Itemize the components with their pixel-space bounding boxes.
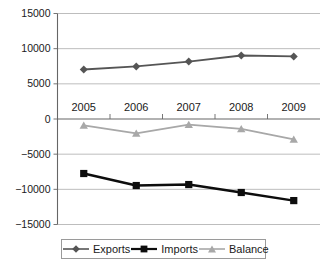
line-chart: 150001000050000−5000−10000−15000 2005200… xyxy=(0,0,327,266)
data-point-diamond xyxy=(290,52,298,60)
data-point-diamond xyxy=(132,62,140,70)
y-tick-label: −15000 xyxy=(15,218,50,230)
legend-marker-square-icon xyxy=(130,243,158,255)
legend-marker-triangle-icon xyxy=(198,243,226,255)
x-category-labels: 20052006200720082009 xyxy=(72,101,306,113)
legend-marker-diamond-icon xyxy=(62,243,90,255)
y-tick-label: 15000 xyxy=(21,7,50,19)
chart-plot-area: 150001000050000−5000−10000−15000 2005200… xyxy=(0,0,327,266)
x-category-label: 2007 xyxy=(177,101,201,113)
y-tick-label: −10000 xyxy=(15,183,50,195)
y-tick-label: 0 xyxy=(45,113,51,125)
data-point-square xyxy=(290,197,297,204)
series-exports xyxy=(80,51,298,73)
legend-item-exports: Exports xyxy=(62,243,130,255)
x-category-label: 2009 xyxy=(282,101,306,113)
x-category-label: 2005 xyxy=(72,101,96,113)
series-lines xyxy=(80,51,298,204)
legend-item-balance: Balance xyxy=(198,243,269,255)
data-point-square xyxy=(133,182,140,189)
x-category-label: 2006 xyxy=(124,101,148,113)
series-balance xyxy=(80,121,298,143)
data-point-diamond xyxy=(237,51,245,59)
y-tick-label: 10000 xyxy=(21,42,50,54)
data-point-square xyxy=(238,189,245,196)
data-point-square xyxy=(80,170,87,177)
series-imports xyxy=(80,170,297,204)
x-axis-ticks xyxy=(110,114,268,119)
chart-legend: Exports Imports Balance xyxy=(61,239,266,259)
data-point-diamond xyxy=(185,58,193,66)
legend-label-exports: Exports xyxy=(92,244,130,255)
y-tick-labels: 150001000050000−5000−10000−15000 xyxy=(15,7,51,230)
data-point-diamond xyxy=(80,65,88,73)
legend-label-imports: Imports xyxy=(160,244,198,255)
legend-label-balance: Balance xyxy=(228,244,269,255)
data-point-square xyxy=(185,181,192,188)
x-category-label: 2008 xyxy=(229,101,253,113)
y-tick-label: −5000 xyxy=(21,148,51,160)
y-tick-label: 5000 xyxy=(27,77,51,89)
legend-item-imports: Imports xyxy=(130,243,198,255)
gridlines xyxy=(54,14,321,225)
